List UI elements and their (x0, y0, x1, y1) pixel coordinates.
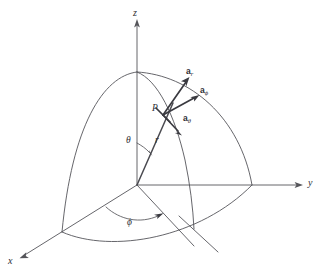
point-label-p: P (152, 104, 158, 114)
unit-vector-label-a-phi: aϕ (200, 86, 208, 96)
coordinate-label-r: r (155, 136, 159, 146)
vec-sub-a-phi: ϕ (205, 89, 208, 96)
diagram-canvas (0, 0, 322, 273)
axis-label-x: x (8, 256, 12, 266)
unit-vector-a-r (163, 77, 190, 115)
meridian-through-p (137, 72, 194, 229)
meridian-arc-right (137, 72, 252, 185)
coordinate-label-theta: θ (126, 136, 131, 146)
axis-label-z: z (133, 8, 137, 18)
unit-vector-a-phi (163, 95, 200, 115)
axis-label-y: y (308, 178, 312, 188)
xy-projection-line (137, 185, 194, 246)
z-axis (134, 19, 140, 185)
phi-arc-arrow (106, 207, 164, 220)
meridian-tail (179, 216, 218, 252)
vec-sub-a-theta: θ (188, 117, 191, 124)
y-axis (137, 182, 303, 188)
unit-vector-label-a-theta: aθ (183, 114, 191, 124)
equator-arc (62, 185, 252, 242)
unit-vector-label-a-r: ar (186, 67, 193, 77)
vec-sub-a-r: r (191, 70, 194, 77)
spherical-coordinate-diagram: z y x P r θ ϕ ar aϕ aθ (0, 0, 322, 273)
coordinate-label-phi: ϕ (127, 218, 132, 228)
x-axis (20, 185, 138, 258)
